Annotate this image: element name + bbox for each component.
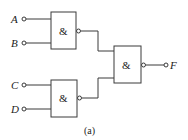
gate-2-inversion-bubble bbox=[78, 96, 82, 100]
output-label-f: F bbox=[169, 59, 177, 71]
input-label-b: B bbox=[11, 37, 18, 49]
input-terminal-d bbox=[22, 107, 26, 111]
input-label-a: A bbox=[10, 13, 18, 25]
input-wire-a bbox=[22, 17, 51, 21]
nand-gate-3: & bbox=[114, 46, 146, 83]
input-terminal-a bbox=[22, 17, 26, 21]
input-label-c: C bbox=[11, 79, 19, 91]
nand-gate-2: & bbox=[51, 80, 82, 117]
input-label-d: D bbox=[10, 103, 19, 115]
output-wire-f bbox=[146, 63, 168, 67]
figure-caption: (a) bbox=[84, 125, 95, 137]
gate-1-inversion-bubble bbox=[77, 29, 81, 33]
input-terminal-b bbox=[22, 41, 26, 45]
wire-gate2-to-gate3 bbox=[82, 78, 114, 98]
input-wire-d bbox=[22, 107, 51, 111]
nand-gate-1: & bbox=[51, 12, 81, 49]
wire-gate1-to-gate3 bbox=[81, 31, 114, 51]
gate-3-symbol: & bbox=[122, 59, 131, 71]
input-wire-b bbox=[22, 41, 51, 45]
logic-circuit-diagram: A B C D & & & F bbox=[0, 0, 188, 140]
gate-2-symbol: & bbox=[59, 92, 68, 104]
input-wire-c bbox=[22, 83, 51, 87]
gate-1-symbol: & bbox=[59, 25, 68, 37]
output-terminal-f bbox=[164, 63, 168, 67]
gate-3-inversion-bubble bbox=[142, 63, 146, 67]
input-terminal-c bbox=[22, 83, 26, 87]
